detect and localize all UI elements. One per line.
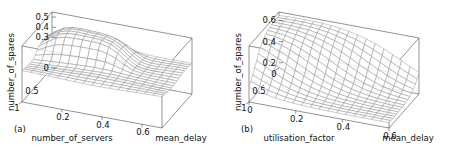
x-axis-label: utilisation_factor — [264, 133, 335, 143]
z-tick-label: 0.5 — [35, 12, 49, 22]
surface-plot-a: 0.50.40.300.510.60.40.2number_of_sparesn… — [0, 0, 227, 148]
z-tick-label: 0.2 — [262, 58, 276, 68]
surface-plot-b: 0.60.40.210.5000.20.40.6number_of_spares… — [227, 0, 454, 148]
x-tick-label: 0 — [271, 69, 276, 79]
panel-label: (a) — [14, 124, 26, 134]
z-tick-label: 0.4 — [35, 22, 49, 32]
x-axis-label: number_of_servers — [31, 133, 113, 143]
y-tick-label: 0.4 — [337, 122, 351, 132]
z-tick-label: 0.4 — [262, 37, 276, 47]
y-tick-label: 0.4 — [96, 120, 110, 130]
z-tick-label: 0.6 — [262, 15, 276, 25]
surface-plot-figure: 0.50.40.300.510.60.40.2number_of_sparesn… — [0, 0, 454, 148]
panel-b: 0.60.40.210.5000.20.40.6number_of_spares… — [227, 0, 454, 148]
y-axis-label: mean_delay — [382, 133, 434, 143]
z-axis-label: number_of_spares — [6, 33, 16, 111]
y-tick-label: 0 — [247, 105, 252, 115]
panel-label: (b) — [241, 124, 253, 134]
z-axis-label: number_of_spares — [233, 33, 243, 111]
y-tick-label: 0.2 — [290, 114, 304, 124]
y-tick-label: 0.2 — [56, 112, 70, 122]
panel-a: 0.50.40.300.510.60.40.2number_of_sparesn… — [0, 0, 227, 148]
z-tick-label: 0 — [44, 63, 49, 73]
z-tick-label: 0.3 — [35, 32, 49, 42]
y-tick-label: 0.6 — [136, 127, 150, 137]
x-tick-label: 0.5 — [25, 86, 39, 96]
x-tick-label: 0.5 — [252, 86, 266, 96]
y-axis-label: mean_delay — [155, 133, 207, 143]
